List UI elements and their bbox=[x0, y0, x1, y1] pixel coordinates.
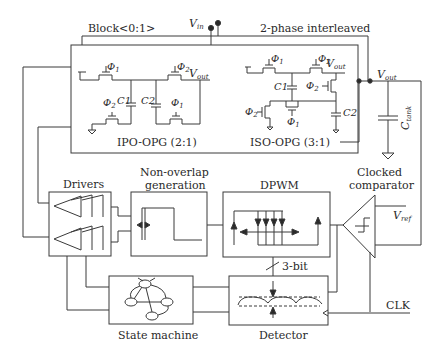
bus-width-label: 3-bit bbox=[282, 261, 308, 272]
vref-label: Vref bbox=[393, 210, 411, 223]
ipo-c2-label: C2 bbox=[141, 96, 155, 106]
ctank-label: Ctank bbox=[400, 106, 413, 130]
ipo-phi2-top: Φ2 bbox=[177, 62, 190, 74]
comparator-label-2: comparator bbox=[349, 180, 414, 191]
vout-label: Vout bbox=[377, 69, 397, 82]
iso-vout-label: Vout bbox=[326, 58, 346, 71]
nonoverlap-block bbox=[131, 192, 207, 256]
iso-c2-label: C2 bbox=[343, 108, 357, 118]
vout-sub: out bbox=[385, 74, 397, 82]
comparator-detector-wire bbox=[328, 225, 337, 292]
detector-block bbox=[229, 276, 328, 325]
state-machine-wires bbox=[67, 256, 229, 312]
vref-main: V bbox=[393, 209, 401, 222]
iso-vout-sub: out bbox=[334, 63, 346, 71]
vref-sub: ref bbox=[401, 215, 411, 223]
comparator-label-1: Clocked bbox=[357, 167, 402, 178]
drivers-block bbox=[49, 192, 111, 256]
state-machine-block bbox=[109, 276, 193, 324]
ipo-vout-sub: out bbox=[197, 73, 209, 81]
iso-c1-label: C1 bbox=[274, 82, 288, 92]
ctank-sub: tank bbox=[405, 106, 413, 122]
vin-main: V bbox=[189, 17, 197, 30]
ipo-phi2-bottom: Φ2 bbox=[103, 98, 116, 110]
iso-phi1-top: Φ1 bbox=[271, 54, 284, 66]
iso-phi2-right: Φ2 bbox=[306, 81, 319, 93]
iso-phi1-bottom: Φ1 bbox=[287, 117, 300, 129]
drivers-label: Drivers bbox=[63, 179, 104, 190]
nonoverlap-label-1: Non-overlap bbox=[140, 167, 209, 178]
ipo-vout-main: V bbox=[189, 67, 197, 80]
block-control-label: Block<0:1> bbox=[88, 23, 155, 34]
iso-vout-main: V bbox=[326, 57, 334, 70]
ipo-phi1-bottom: Φ1 bbox=[171, 98, 184, 110]
ipo-phi1-top: Φ1 bbox=[107, 62, 120, 74]
clk-label: CLK bbox=[386, 300, 410, 311]
iso-phi2-left: Φ2 bbox=[245, 107, 258, 119]
detector-label: Detector bbox=[259, 330, 308, 341]
ipo-opg-title: IPO-OPG (2:1) bbox=[117, 137, 197, 148]
state-machine-label: State machine bbox=[118, 330, 198, 341]
ipo-vout-label: Vout bbox=[189, 68, 209, 81]
vin-sub: in bbox=[197, 23, 204, 31]
driver-gate-wires bbox=[23, 67, 71, 237]
ipo-c1-label: C1 bbox=[117, 96, 131, 106]
three-bit-bus bbox=[266, 257, 279, 276]
interleave-label: 2-phase interleaved bbox=[260, 23, 370, 34]
iso-opg-title: ISO-OPG (3:1) bbox=[250, 137, 330, 148]
vin-label: Vin bbox=[189, 18, 204, 31]
vout-main: V bbox=[377, 68, 385, 81]
dpwm-block bbox=[223, 192, 330, 257]
driver-link-wires bbox=[111, 207, 131, 242]
nonoverlap-label-2: generation bbox=[145, 180, 206, 191]
ctank-main: C bbox=[399, 122, 412, 130]
dpwm-label: DPWM bbox=[260, 180, 299, 191]
